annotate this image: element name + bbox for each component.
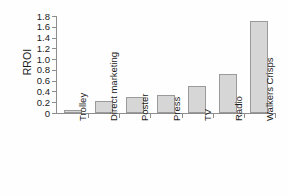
x-tick-label: Press: [171, 97, 182, 121]
x-tick-mark: [119, 114, 120, 118]
y-tick-mark: [52, 16, 56, 17]
x-tick-label: Poster: [139, 94, 150, 121]
y-tick-mark: [52, 113, 56, 114]
x-tick-mark: [275, 114, 276, 118]
y-tick-label: 0.4: [10, 87, 50, 96]
x-tick-label: Walkers Crisps: [264, 57, 275, 121]
bar-chart: RROI 00.20.40.60.81.01.21.41.61.8 Trolle…: [0, 0, 288, 196]
y-tick-mark: [52, 102, 56, 103]
y-tick-label: 1.0: [10, 55, 50, 64]
x-tick-label: TV: [202, 109, 213, 121]
y-tick-label: 0: [10, 109, 50, 118]
y-tick-mark: [52, 70, 56, 71]
y-tick-label: 1.6: [10, 22, 50, 31]
y-tick-mark: [52, 38, 56, 39]
y-tick-label: 0.8: [10, 65, 50, 74]
y-tick-mark: [52, 91, 56, 92]
x-tick-label: Radio: [233, 96, 244, 121]
x-tick-mark: [88, 114, 89, 118]
y-tick-label: 1.8: [10, 12, 50, 21]
y-tick-label: 1.4: [10, 33, 50, 42]
y-tick-mark: [52, 59, 56, 60]
y-tick-mark: [52, 48, 56, 49]
y-tick-label: 0.6: [10, 76, 50, 85]
y-tick-mark: [52, 81, 56, 82]
y-tick-mark: [52, 27, 56, 28]
y-tick-label: 0.2: [10, 98, 50, 107]
y-tick-label: 1.2: [10, 44, 50, 53]
x-tick-mark: [150, 114, 151, 118]
x-tick-label: Trolley: [77, 93, 88, 121]
x-tick-label: Direct marketing: [108, 52, 119, 121]
